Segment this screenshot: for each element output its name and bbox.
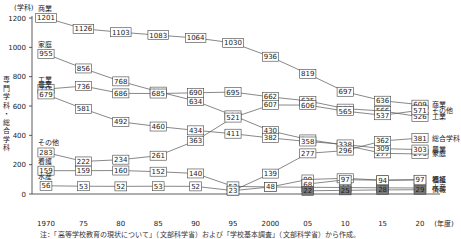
data-label: 97 — [416, 176, 425, 184]
series-name-end: 情報 — [432, 185, 446, 194]
x-tick-label: 15 — [378, 220, 387, 228]
x-tick-label: 85 — [154, 220, 163, 228]
data-label: 303 — [413, 146, 426, 154]
series-name-start: 農業 — [38, 80, 52, 89]
data-label: 936 — [264, 53, 278, 61]
data-label: 679 — [39, 91, 52, 99]
y-tick-label: 1200 — [8, 15, 26, 23]
data-label: 296 — [339, 147, 353, 155]
data-label: 565 — [339, 108, 352, 116]
y-axis-label: ・ — [3, 110, 10, 118]
series-name-start: 商業 — [38, 4, 52, 13]
data-label: 139 — [264, 170, 277, 178]
data-label: 606 — [301, 102, 315, 110]
data-label: 685 — [152, 90, 165, 98]
data-label: 736 — [77, 83, 91, 91]
series-name-end: 福祉 — [432, 175, 446, 184]
data-label: 28 — [378, 186, 387, 194]
data-label: 48 — [266, 183, 275, 191]
data-label: 53 — [154, 183, 163, 191]
series-line — [46, 54, 420, 154]
x-tick-label: 10 — [341, 220, 350, 228]
data-label: 1126 — [74, 25, 92, 33]
data-label: 52 — [116, 183, 125, 191]
y-axis-label: 合 — [3, 126, 10, 135]
data-label: 29 — [416, 186, 425, 194]
y-unit-label: (学科) — [14, 3, 34, 12]
data-label: 571 — [413, 107, 426, 115]
series-name-end: 総合学科 — [432, 134, 460, 143]
data-label: 234 — [114, 156, 128, 164]
data-label: 25 — [341, 187, 350, 195]
y-tick-label: 1000 — [8, 44, 26, 52]
series-line — [308, 180, 420, 184]
x-tick-label: 1970 — [37, 220, 55, 228]
y-tick-label: 800 — [13, 73, 26, 81]
data-label: 411 — [226, 130, 239, 138]
line-chart: 020040060080010001200(学科)専門学科・総合学科197075… — [0, 0, 461, 238]
data-label: 460 — [152, 123, 165, 131]
y-axis-label: 門 — [3, 85, 10, 93]
y-tick-label: 400 — [13, 132, 26, 140]
data-label: 222 — [77, 158, 90, 166]
data-label: 1064 — [187, 34, 205, 42]
x-tick-label: 95 — [229, 220, 238, 228]
data-label: 521 — [226, 114, 239, 122]
data-label: 434 — [189, 127, 203, 135]
series-name-end: その他 — [432, 106, 453, 115]
data-label: 159 — [77, 167, 90, 175]
data-label: 382 — [264, 134, 277, 142]
data-label: 607 — [264, 101, 277, 109]
data-label: 955 — [39, 50, 52, 58]
x-tick-label: 80 — [116, 220, 125, 228]
data-label: 636 — [376, 97, 390, 105]
data-label: 152 — [152, 168, 165, 176]
series-line — [233, 138, 420, 191]
data-label: 53 — [79, 183, 88, 191]
data-label: 856 — [77, 65, 91, 73]
y-axis-label: 総 — [3, 118, 10, 127]
data-label: 22 — [303, 187, 312, 195]
y-axis-label: 学 — [3, 92, 10, 101]
y-tick-label: 0 — [22, 191, 26, 199]
data-label: 23 — [229, 187, 238, 195]
data-label: 1103 — [112, 29, 130, 37]
data-label: 362 — [376, 137, 389, 145]
data-label: 52 — [191, 183, 200, 191]
data-label: 1030 — [224, 39, 242, 47]
data-label: 309 — [376, 145, 389, 153]
data-label: 537 — [376, 112, 389, 120]
x-tick-label: 2000 — [261, 220, 279, 228]
data-label: 1083 — [149, 32, 167, 40]
chart-note: 注：「高等学校教育の現状について」（文部科学省）および「学校基本調査」（文部科学… — [40, 229, 360, 238]
x-tick-label: 90 — [191, 220, 200, 228]
y-tick-label: 600 — [13, 103, 26, 111]
data-label: 140 — [189, 170, 202, 178]
data-label: 261 — [152, 152, 165, 160]
y-axis-label: 学 — [3, 135, 10, 144]
x-tick-label: 75 — [79, 220, 88, 228]
y-axis-label: 専 — [3, 75, 10, 84]
data-label: 768 — [114, 78, 127, 86]
data-label: 97 — [341, 176, 350, 184]
data-label: 56 — [42, 182, 51, 190]
data-label: 690 — [189, 89, 202, 97]
data-label: 695 — [226, 89, 239, 97]
data-label: 358 — [301, 138, 314, 146]
data-label: 94 — [378, 177, 387, 185]
data-label: 581 — [77, 105, 90, 113]
data-label: 819 — [301, 70, 314, 78]
series-line — [308, 190, 420, 191]
data-label: 277 — [301, 150, 314, 158]
data-label: 1201 — [37, 14, 55, 22]
x-tick-label: 05 — [303, 220, 312, 228]
series-name-start: 家庭 — [38, 40, 52, 49]
y-axis-label: 科 — [3, 101, 10, 110]
y-axis-label: 科 — [3, 143, 10, 152]
data-label: 283 — [39, 149, 52, 157]
data-label: 634 — [189, 98, 203, 106]
chart-canvas: 020040060080010001200(学科)専門学科・総合学科197075… — [0, 0, 461, 238]
data-label: 697 — [339, 88, 352, 96]
data-label: 492 — [114, 118, 127, 126]
series-name-start: 看護 — [38, 157, 52, 166]
